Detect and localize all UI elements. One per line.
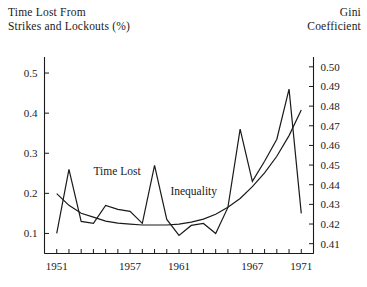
- y-tick-label-right: 0.48: [321, 100, 341, 112]
- y-tick-label-right: 0.46: [321, 139, 341, 151]
- x-tick-label: 1961: [168, 260, 190, 272]
- y-tick-label-right: 0.50: [321, 61, 341, 73]
- chart-plot-area: 195119571961196719710.10.20.30.40.50.410…: [0, 0, 367, 287]
- x-tick-label: 1971: [290, 260, 312, 272]
- y-tick-label-right: 0.47: [321, 120, 341, 132]
- y-tick-label-right: 0.49: [321, 80, 341, 92]
- chart-series: [57, 89, 302, 235]
- y-tick-label-right: 0.43: [321, 198, 341, 210]
- series-line-time-lost: [57, 89, 302, 235]
- y-tick-label-left: 0.3: [24, 147, 38, 159]
- y-tick-label-left: 0.4: [24, 107, 38, 119]
- y-tick-label-right: 0.42: [321, 218, 340, 230]
- y-tick-label-left: 0.1: [24, 227, 38, 239]
- chart-figure: Time Lost FromStrikes and Lockouts (%) G…: [0, 0, 367, 287]
- chart-ticks: [45, 67, 314, 254]
- x-tick-label: 1957: [119, 260, 142, 272]
- y-tick-label-right: 0.41: [321, 238, 340, 250]
- y-tick-label-right: 0.44: [321, 179, 341, 191]
- x-tick-label: 1951: [46, 260, 68, 272]
- y-tick-label-right: 0.45: [321, 159, 341, 171]
- y-tick-label-left: 0.5: [24, 67, 38, 79]
- y-tick-label-left: 0.2: [24, 187, 38, 199]
- chart-tick-labels: 195119571961196719710.10.20.30.40.50.410…: [24, 61, 341, 272]
- series-annotation-time-lost: Time Lost: [93, 165, 141, 177]
- series-annotation-inequality: Inequality: [170, 185, 217, 198]
- x-tick-label: 1967: [241, 260, 264, 272]
